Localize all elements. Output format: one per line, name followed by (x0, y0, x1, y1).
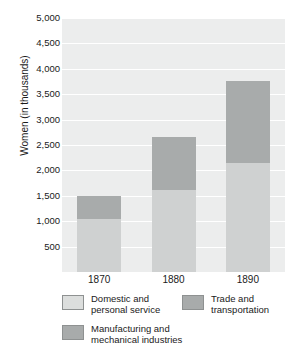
x-tick-label-1870: 1870 (69, 274, 129, 285)
y-tick-label: 500 (4, 242, 60, 252)
y-tick-label: 1,000 (4, 216, 60, 226)
y-tick-label: 5,000 (4, 13, 60, 23)
bar-segment (226, 81, 270, 164)
y-tick-label: 3,000 (4, 115, 60, 125)
gridline (62, 69, 285, 70)
x-tick-label-1880: 1880 (144, 274, 204, 285)
bar-1870[interactable] (77, 196, 121, 272)
legend-swatch-trade (182, 295, 204, 310)
y-axis-title: Women (in thousands) (19, 36, 30, 176)
y-tick-label: 1,500 (4, 191, 60, 201)
bar-segment (152, 190, 196, 272)
plot-region: Women (in thousands) 5001,0001,5002,0002… (0, 0, 294, 282)
y-tick: 2,500 (0, 140, 60, 150)
y-tick-label: 3,500 (4, 89, 60, 99)
y-tick-label: 2,000 (4, 165, 60, 175)
bar-1880[interactable] (152, 137, 196, 272)
y-tick-label: 4,000 (4, 64, 60, 74)
y-tick: 500 (0, 242, 60, 252)
legend-label-domestic: Domestic and personal service (91, 294, 160, 315)
bar-1890[interactable] (226, 81, 270, 273)
legend-item-domestic[interactable]: Domestic and personal service (62, 294, 182, 315)
gridline (62, 43, 285, 44)
bar-segment (152, 137, 196, 189)
y-tick: 5,000 (0, 13, 60, 23)
bar-segment (226, 163, 270, 272)
plot-area (62, 18, 285, 272)
legend-label-manufacturing: Manufacturing and mechanical industries (91, 324, 182, 345)
y-tick: 1,500 (0, 191, 60, 201)
legend-swatch-domestic (62, 295, 84, 310)
y-tick: 3,000 (0, 115, 60, 125)
legend-swatch-manufacturing (62, 325, 84, 340)
legend-item-manufacturing[interactable]: Manufacturing and mechanical industries (62, 324, 252, 345)
stacked-bar-chart: Women (in thousands) 5001,0001,5002,0002… (0, 0, 294, 356)
chart-legend: Domestic and personal service Trade and … (0, 290, 294, 356)
y-tick: 3,500 (0, 89, 60, 99)
bar-segment (77, 219, 121, 272)
legend-label-trade: Trade and transportation (211, 294, 269, 315)
y-tick: 4,500 (0, 38, 60, 48)
y-tick: 1,000 (0, 216, 60, 226)
legend-item-trade[interactable]: Trade and transportation (182, 294, 294, 315)
x-tick-label-1890: 1890 (218, 274, 278, 285)
y-tick-label: 4,500 (4, 38, 60, 48)
y-tick: 2,000 (0, 165, 60, 175)
y-tick-label: 2,500 (4, 140, 60, 150)
bar-segment (77, 196, 121, 219)
y-tick: 4,000 (0, 64, 60, 74)
gridline (62, 18, 285, 19)
